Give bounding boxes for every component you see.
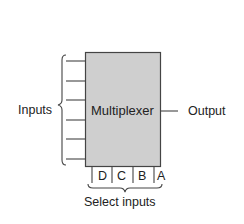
select-inputs-label: Select inputs [84,196,156,209]
select-brace [88,184,162,192]
select-input-a: A [157,170,165,183]
inputs-brace [58,55,66,165]
inputs-label: Inputs [18,104,52,117]
multiplexer-label: Multiplexer [91,104,154,117]
select-input-d: D [98,170,107,183]
select-input-c: C [117,170,126,183]
output-label: Output [188,105,226,118]
select-input-b: B [138,170,146,183]
input-lines [66,61,86,159]
